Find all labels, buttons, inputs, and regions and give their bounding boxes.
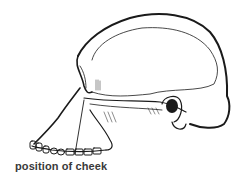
maxilla-lower-edge <box>90 110 112 150</box>
ear-opening <box>166 99 178 113</box>
cheek-pointer-line <box>75 100 84 154</box>
face-outline <box>34 88 80 144</box>
brow-ridge <box>77 56 92 93</box>
cheek-position-label: position of cheek <box>15 160 107 172</box>
cranium-outline <box>78 14 229 128</box>
skull-diagram: position of cheek <box>0 0 243 193</box>
cranium-inner-line <box>92 28 217 96</box>
